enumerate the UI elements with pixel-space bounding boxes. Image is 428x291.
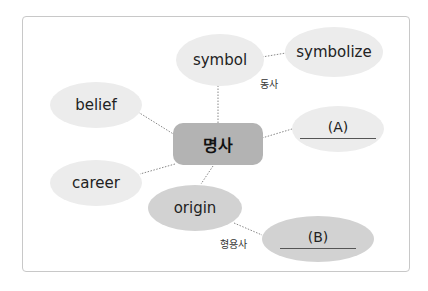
node-symbol-label: symbol: [193, 51, 247, 69]
connector-center-origin: [201, 166, 213, 184]
node-symbol: symbol: [176, 34, 264, 86]
node-symbolize: symbolize: [285, 27, 383, 77]
connector-origin-b: [234, 223, 262, 235]
node-belief-label: belief: [75, 96, 117, 114]
node-blank-b: (B): [262, 216, 374, 262]
blank-a-underline: [300, 138, 376, 139]
node-symbolize-label: symbolize: [296, 43, 371, 61]
connector-symbol-symbolize: [262, 53, 286, 57]
node-belief: belief: [50, 82, 142, 128]
connector-center-career: [140, 164, 175, 174]
blank-b-label: (B): [308, 229, 329, 245]
node-origin: origin: [148, 185, 242, 231]
node-blank-a: (A): [292, 106, 384, 152]
tag-verb: 동사: [258, 75, 280, 92]
connector-center-a: [262, 129, 292, 138]
blank-b-underline: [280, 248, 356, 249]
center-node: 명사: [173, 123, 263, 165]
connector-center-belief: [138, 112, 175, 135]
center-node-label: 명사: [203, 132, 233, 156]
tag-adjective: 형용사: [218, 235, 249, 252]
blank-a-label: (A): [328, 119, 349, 135]
node-origin-label: origin: [174, 199, 217, 217]
node-career: career: [50, 160, 142, 206]
node-career-label: career: [72, 174, 120, 192]
